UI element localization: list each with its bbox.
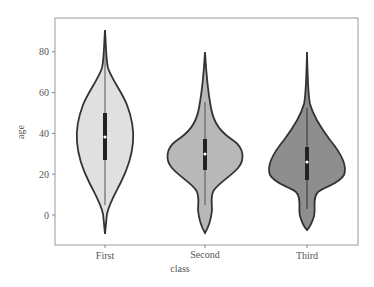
y-tick-label: 60 [39,87,49,98]
y-axis: 0 20 40 60 80 age [15,46,55,220]
y-tick-label: 20 [39,169,49,180]
y-axis-label: age [15,125,26,139]
violin-second [167,52,242,233]
x-tick-label-first: First [96,250,115,261]
x-axis-label: class [170,263,190,274]
y-tick-label: 80 [39,46,49,57]
y-tick-label: 0 [44,210,49,221]
violin-third [269,52,345,230]
violin-first [77,30,134,234]
x-tick-label-third: Third [296,250,318,261]
x-axis: First Second Third class [96,245,318,274]
violin-chart: 0 20 40 60 80 age First Second Third cla… [0,0,374,287]
y-tick-label: 40 [39,128,49,139]
x-tick-label-second: Second [190,249,219,260]
